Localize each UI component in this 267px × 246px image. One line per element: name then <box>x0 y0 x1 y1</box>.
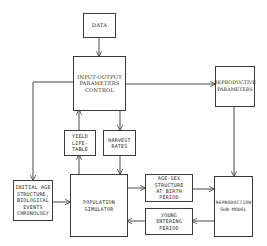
young-entering-period-node: YOUNG ENTERING PERIOD <box>145 208 193 235</box>
harvest-rates-node: HARVEST RATES <box>103 130 136 156</box>
yield-life-table-node: YIELD LIFE-TABLE <box>64 130 96 156</box>
initial-age-structure-node: INITIAL AGE STRUCTURE, BIOLOGICAL EVENTS… <box>13 180 53 221</box>
age-sex-structure-node: AGE-SEX STRUCTURE AT BIRTH PERIOD <box>145 174 193 202</box>
input-output-parameters-control-node: INPUT-OUTPUT PARAMETERS CONTROL <box>73 56 126 111</box>
population-simulator-node: POPULATION SIMULATOR <box>70 174 128 237</box>
reproductive-parameters-node: REPRODUCTIVE PARAMETERS <box>215 66 255 107</box>
reproduction-sub-model-node: REPRODUCTION SUB-MODEL <box>214 176 253 237</box>
data-node: DATA <box>83 13 116 38</box>
